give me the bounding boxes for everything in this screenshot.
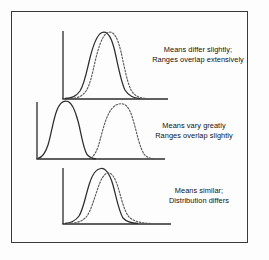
panel-3-caption-line-2: Distribution differs bbox=[156, 196, 242, 206]
panel-2: Means vary greatly Ranges overlap slight… bbox=[26, 96, 241, 171]
panel-3-curve-dotted bbox=[68, 173, 150, 223]
panel-1-caption: Means differ slightly; Ranges overlap ex… bbox=[152, 45, 244, 65]
panel-1-curve-dotted bbox=[71, 32, 147, 98]
figure-root: Means differ slightly; Ranges overlap ex… bbox=[0, 0, 269, 260]
panel-3-caption-line-1: Means similar; bbox=[156, 186, 242, 196]
panel-2-caption: Means vary greatly Ranges overlap slight… bbox=[148, 121, 240, 141]
panel-2-caption-line-2: Ranges overlap slightly bbox=[148, 131, 240, 141]
panel-3-caption: Means similar; Distribution differs bbox=[156, 186, 242, 206]
panel-2-curve-dotted bbox=[88, 104, 155, 159]
panel-1-caption-line-1: Means differ slightly; bbox=[152, 45, 244, 55]
figure-frame: Means differ slightly; Ranges overlap ex… bbox=[11, 11, 248, 243]
panel-1: Means differ slightly; Ranges overlap ex… bbox=[52, 25, 242, 103]
panel-3-curve-solid bbox=[65, 168, 138, 223]
panel-2-curve-solid bbox=[38, 101, 96, 159]
panel-1-caption-line-2: Ranges overlap extensively bbox=[152, 55, 244, 65]
panel-2-caption-line-1: Means vary greatly bbox=[148, 121, 240, 131]
panel-1-curve-solid bbox=[65, 32, 140, 98]
panel-3: Means similar; Distribution differs bbox=[52, 164, 242, 242]
